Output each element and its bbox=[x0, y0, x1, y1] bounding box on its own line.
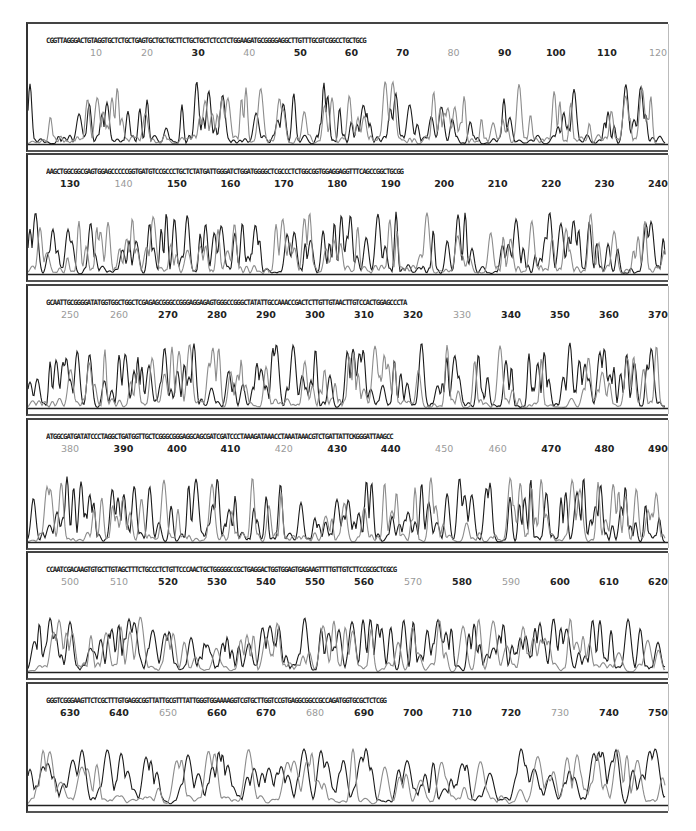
position-ticks: 380390400410420430440450460470480490 bbox=[28, 443, 668, 455]
tick-label: 390 bbox=[114, 443, 134, 454]
tick-label: 70 bbox=[396, 47, 409, 58]
panel-edge bbox=[668, 24, 669, 150]
position-ticks: 102030405060708090100110120 bbox=[28, 47, 668, 59]
tick-label: 190 bbox=[381, 178, 401, 189]
tick-label: 270 bbox=[158, 309, 178, 320]
tick-label: 120 bbox=[649, 47, 667, 58]
tick-label: 100 bbox=[546, 47, 566, 58]
tick-label: 450 bbox=[435, 443, 453, 454]
tick-label: 90 bbox=[498, 47, 511, 58]
tick-label: 680 bbox=[306, 707, 324, 718]
panel-edge bbox=[668, 684, 669, 811]
panel-edge bbox=[668, 553, 669, 678]
tick-label: 350 bbox=[550, 309, 570, 320]
tick-label: 560 bbox=[354, 576, 374, 587]
chromatogram-panel: ATGGCGATGATATCCCTAGGCTGATGGTTGCTCGGGCGGG… bbox=[26, 418, 668, 550]
tick-label: 620 bbox=[648, 576, 668, 587]
tick-label: 280 bbox=[207, 309, 227, 320]
tick-label: 540 bbox=[256, 576, 276, 587]
tick-label: 30 bbox=[192, 47, 205, 58]
tick-label: 50 bbox=[294, 47, 307, 58]
tick-label: 700 bbox=[403, 707, 423, 718]
tick-label: 330 bbox=[453, 309, 471, 320]
tick-label: 490 bbox=[648, 443, 668, 454]
tick-label: 180 bbox=[327, 178, 347, 189]
position-ticks: 250260270280290300310320330340350360370 bbox=[28, 309, 668, 321]
panel-edge bbox=[668, 155, 669, 280]
tick-label: 510 bbox=[110, 576, 128, 587]
tick-label: 290 bbox=[256, 309, 276, 320]
tick-label: 500 bbox=[61, 576, 79, 587]
tick-label: 220 bbox=[541, 178, 561, 189]
tick-label: 250 bbox=[61, 309, 79, 320]
tick-label: 750 bbox=[648, 707, 668, 718]
base-sequence: GCAATTGCGGGGATATGGTGGCTGGCTCGAGAGCGGGCCG… bbox=[46, 298, 666, 308]
tick-label: 530 bbox=[207, 576, 227, 587]
tick-label: 460 bbox=[489, 443, 507, 454]
tick-label: 160 bbox=[220, 178, 240, 189]
chromatogram-panel: CCAATCGACAAGTGTGCTTGTAGCTTTCTGCCCTCTGTTC… bbox=[26, 551, 668, 680]
tick-label: 400 bbox=[167, 443, 187, 454]
tick-label: 260 bbox=[110, 309, 128, 320]
position-ticks: 630640650660670680690700710720730740750 bbox=[28, 707, 668, 719]
tick-label: 420 bbox=[275, 443, 293, 454]
tick-label: 720 bbox=[501, 707, 521, 718]
tick-label: 640 bbox=[109, 707, 129, 718]
tick-label: 320 bbox=[403, 309, 423, 320]
tick-label: 600 bbox=[550, 576, 570, 587]
tick-label: 140 bbox=[114, 178, 132, 189]
tick-label: 630 bbox=[60, 707, 80, 718]
tick-label: 230 bbox=[595, 178, 615, 189]
tick-label: 440 bbox=[381, 443, 401, 454]
panel-edge bbox=[668, 420, 669, 548]
position-ticks: 130140150160170180190200210220230240 bbox=[28, 178, 668, 190]
tick-label: 580 bbox=[452, 576, 472, 587]
tick-label: 80 bbox=[448, 47, 460, 58]
tick-label: 10 bbox=[90, 47, 102, 58]
tick-label: 480 bbox=[595, 443, 615, 454]
tick-label: 370 bbox=[648, 309, 668, 320]
base-sequence: ATGGCGATGATATCCCTAGGCTGATGGTTGCTCGGGCGGG… bbox=[46, 432, 666, 442]
chromatogram-panel: GCAATTGCGGGGATATGGTGGCTGGCTCGAGAGCGGGCCG… bbox=[26, 284, 668, 416]
tick-label: 200 bbox=[434, 178, 454, 189]
tick-label: 360 bbox=[599, 309, 619, 320]
tick-label: 300 bbox=[305, 309, 325, 320]
tick-label: 40 bbox=[243, 47, 255, 58]
tick-label: 380 bbox=[61, 443, 79, 454]
tick-label: 740 bbox=[599, 707, 619, 718]
tick-label: 310 bbox=[354, 309, 374, 320]
position-ticks: 500510520530540550560570580590600610620 bbox=[28, 576, 668, 588]
tick-label: 520 bbox=[158, 576, 178, 587]
trace-dark bbox=[28, 343, 665, 408]
trace-light bbox=[28, 82, 665, 144]
panel-edge bbox=[668, 286, 669, 414]
tick-label: 410 bbox=[220, 443, 240, 454]
tick-label: 340 bbox=[501, 309, 521, 320]
tick-label: 590 bbox=[502, 576, 520, 587]
tick-label: 550 bbox=[305, 576, 325, 587]
trace-dark bbox=[28, 212, 665, 274]
tick-label: 430 bbox=[327, 443, 347, 454]
base-sequence: GGGTCGGGAAGTTCTCGCTTTGTGAGGCGGTTATTGCGTT… bbox=[46, 696, 666, 706]
tick-label: 610 bbox=[599, 576, 619, 587]
tick-label: 240 bbox=[648, 178, 668, 189]
tick-label: 650 bbox=[159, 707, 177, 718]
chromatogram-panel: GGGTCGGGAAGTTCTCGCTTTGTGAGGCGGTTATTGCGTT… bbox=[26, 682, 668, 813]
base-sequence: CCAATCGACAAGTGTGCTTGTAGCTTTCTGCCCTCTGTTC… bbox=[46, 565, 666, 575]
tick-label: 660 bbox=[207, 707, 227, 718]
base-sequence: CGGTTAGGGACTGTAGGTGCTCTGCTGAGTGCTGCTGCTT… bbox=[46, 36, 666, 46]
tick-label: 710 bbox=[452, 707, 472, 718]
tick-label: 60 bbox=[345, 47, 358, 58]
tick-label: 690 bbox=[354, 707, 374, 718]
tick-label: 470 bbox=[541, 443, 561, 454]
tick-label: 150 bbox=[167, 178, 187, 189]
tick-label: 210 bbox=[488, 178, 508, 189]
base-sequence: AAGCTGGCGGCGAGTGGAGCCCCCGGTGATGTCCGCCCTG… bbox=[46, 167, 666, 177]
tick-label: 670 bbox=[256, 707, 276, 718]
tick-label: 570 bbox=[404, 576, 422, 587]
tick-label: 20 bbox=[141, 47, 153, 58]
tick-label: 130 bbox=[60, 178, 80, 189]
trace-dark bbox=[28, 749, 665, 804]
tick-label: 170 bbox=[274, 178, 294, 189]
tick-label: 110 bbox=[597, 47, 617, 58]
